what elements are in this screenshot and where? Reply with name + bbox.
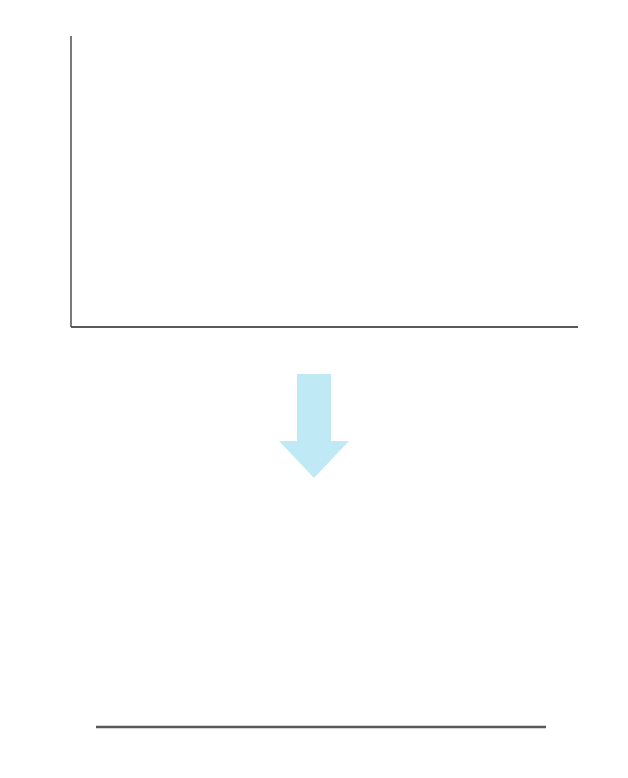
transform-arrow-group [279, 374, 349, 478]
lognormal-to-normal-figure [0, 0, 628, 778]
down-arrow-icon [279, 374, 349, 478]
top-scatter-chart [71, 36, 578, 327]
